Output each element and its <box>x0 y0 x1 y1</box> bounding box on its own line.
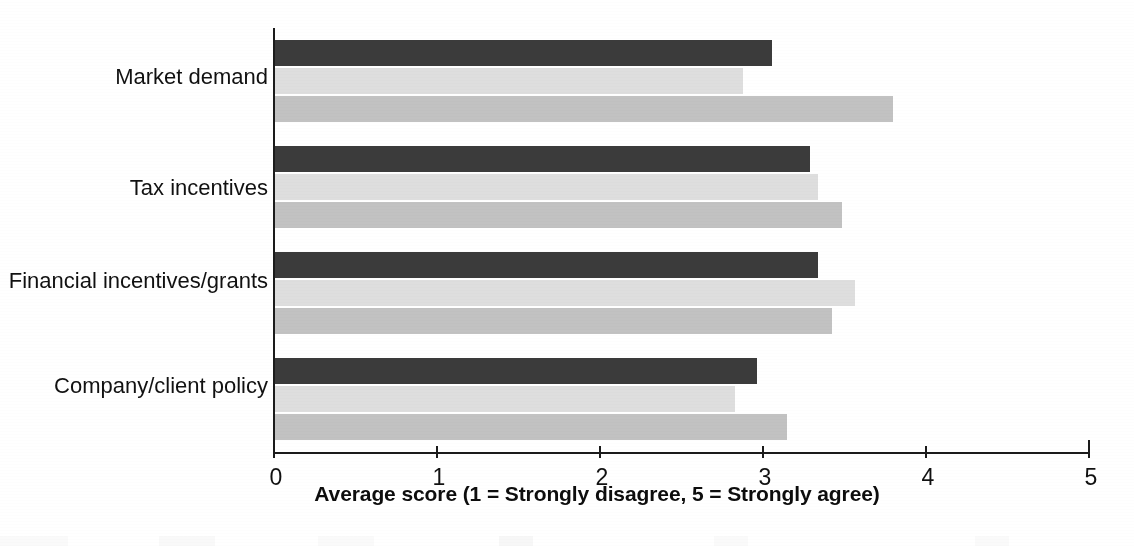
bar-tax-incentives-series-3 <box>275 202 842 228</box>
scan-edge-noise <box>0 536 1134 546</box>
bar-market-demand-series-2 <box>275 68 743 94</box>
x-tick-3 <box>762 446 764 458</box>
bar-tax-incentives-series-2 <box>275 174 818 200</box>
bar-company-client-policy-series-3 <box>275 414 787 440</box>
value-axis-line <box>273 452 1090 454</box>
x-tick-0 <box>273 440 275 458</box>
x-tick-5 <box>1088 440 1090 458</box>
x-tick-1 <box>436 446 438 458</box>
x-axis-title-text: Average score (1 = Strongly disagree, 5 … <box>254 482 879 506</box>
category-label-market-demand: Market demand <box>0 64 268 90</box>
category-label-company-client-policy: Company/client policy <box>0 373 268 399</box>
bar-tax-incentives-series-1 <box>275 146 810 172</box>
x-axis-title: Average score (1 = Strongly disagree, 5 … <box>0 482 1134 506</box>
bar-company-client-policy-series-2 <box>275 386 735 412</box>
category-label-tax-incentives: Tax incentives <box>0 175 268 201</box>
bar-financial-incentives-grants-series-2 <box>275 280 855 306</box>
bar-financial-incentives-grants-series-3 <box>275 308 832 334</box>
bar-market-demand-series-1 <box>275 40 772 66</box>
bar-chart: Market demand Tax incentives Financial i… <box>0 0 1134 546</box>
bar-financial-incentives-grants-series-1 <box>275 252 818 278</box>
x-tick-2 <box>599 446 601 458</box>
x-tick-4 <box>925 446 927 458</box>
plot-area: 0 1 2 3 4 5 <box>275 28 1090 452</box>
bar-company-client-policy-series-1 <box>275 358 757 384</box>
bar-market-demand-series-3 <box>275 96 893 122</box>
category-label-financial-incentives-grants: Financial incentives/grants <box>0 268 268 294</box>
